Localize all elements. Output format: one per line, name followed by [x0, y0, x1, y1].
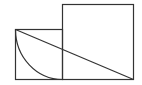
quarter-arc	[16, 30, 63, 80]
diagonal-line	[16, 30, 134, 80]
large-square	[63, 5, 134, 80]
small-square	[16, 30, 63, 80]
geometry-diagram	[0, 0, 142, 85]
